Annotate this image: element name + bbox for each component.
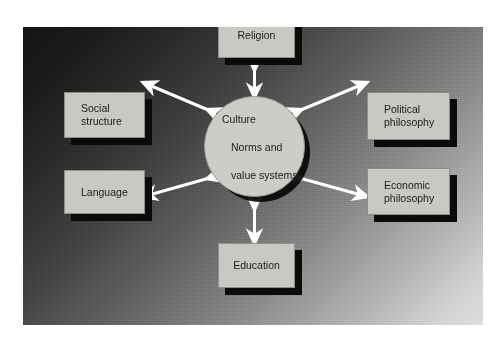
node-political-philosophy-label: Political philosophy xyxy=(368,103,434,129)
connector-economic-philosophy xyxy=(296,177,361,195)
node-religion-label: Religion xyxy=(238,29,276,42)
center-line-2: Norms and xyxy=(222,140,298,154)
node-social-structure[interactable]: Social structure xyxy=(64,92,145,138)
node-education[interactable]: Education xyxy=(218,243,295,288)
diagram-panel: Culture Norms and value systems Religion… xyxy=(23,27,483,325)
center-node-text: Culture Norms and value systems xyxy=(205,98,298,196)
center-line-1: Culture xyxy=(222,112,298,126)
node-social-structure-label: Social structure xyxy=(65,102,122,128)
node-political-philosophy[interactable]: Political philosophy xyxy=(367,92,450,140)
figure-root: Culture Norms and value systems Religion… xyxy=(0,0,503,343)
center-line-3: value systems xyxy=(222,168,298,182)
node-economic-philosophy-label: Economic philosophy xyxy=(368,179,434,205)
node-language-label: Language xyxy=(65,186,128,199)
connector-political-philosophy xyxy=(296,85,361,112)
node-economic-philosophy[interactable]: Economic philosophy xyxy=(367,168,450,215)
node-language[interactable]: Language xyxy=(64,170,145,214)
connector-social-structure xyxy=(149,85,213,112)
node-religion[interactable]: Religion xyxy=(218,27,295,58)
node-education-label: Education xyxy=(233,259,280,272)
center-node-culture[interactable]: Culture Norms and value systems xyxy=(204,96,305,197)
connector-language xyxy=(149,177,213,195)
